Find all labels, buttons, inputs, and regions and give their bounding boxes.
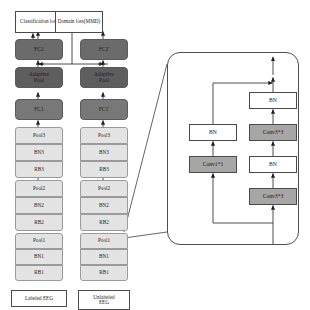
- source-bn3-label: BN3: [34, 150, 44, 155]
- source-pool2-label: Pool2: [33, 186, 45, 191]
- target-rb2-box: RB2: [80, 214, 128, 231]
- target-rb1-box: RB1: [80, 265, 128, 281]
- domain-loss-box: Domain loss(MMD): [55, 11, 103, 33]
- target-rb2-label: RB2: [99, 220, 109, 225]
- source-rb3-label: RB3: [34, 167, 44, 172]
- target-bn3-box: BN3: [80, 144, 128, 161]
- classification-loss-label: Classification loss: [20, 19, 58, 24]
- target-fc1-label: FC1': [99, 107, 109, 113]
- unlabeled-eeg-label-2: EEG: [99, 300, 109, 305]
- source-bn3-box: BN3: [15, 144, 63, 161]
- source-pool2-box: Pool2: [15, 180, 63, 197]
- source-rb3-box: RB3: [15, 161, 63, 178]
- target-fc2-label: FC2': [99, 47, 109, 53]
- residual-conv1x1-box: Conv1*1: [189, 156, 237, 173]
- source-rb2-box: RB2: [15, 214, 63, 231]
- unlabeled-eeg-input-box: Unlabeled EEG: [78, 290, 130, 310]
- source-fc1-label: FC1: [34, 107, 43, 113]
- target-rb3-box: RB3: [80, 161, 128, 178]
- source-rb1-label: RB1: [34, 270, 44, 275]
- source-rb1-box: RB1: [15, 265, 63, 281]
- target-rb1-label: RB1: [99, 270, 109, 275]
- target-pool1-box: Pool1: [80, 233, 128, 249]
- source-fc1-box: FC1: [15, 99, 63, 120]
- source-pool1-box: Pool1: [15, 233, 63, 249]
- domain-loss-label: Domain loss(MMD): [58, 19, 101, 24]
- residual-conv1x1-label: Conv1*1: [203, 162, 224, 168]
- target-adaptive-pool-box: Adaptive Pool: [80, 67, 128, 88]
- source-fc2-label: FC2: [34, 47, 43, 53]
- source-bn1-box: BN1: [15, 249, 63, 265]
- target-bn2-label: BN2: [99, 203, 109, 208]
- labeled-eeg-input-box: Labeled EEG: [11, 290, 67, 307]
- target-bn1-box: BN1: [80, 249, 128, 265]
- source-adaptive-pool-label-2: Pool: [34, 78, 44, 84]
- target-adaptive-pool-label-2: Pool: [99, 78, 109, 84]
- residual-bn-mid-label: BN: [269, 162, 277, 168]
- target-bn3-label: BN3: [99, 150, 109, 155]
- source-adaptive-pool-box: Adaptive Pool: [15, 67, 63, 88]
- labeled-eeg-label: Labeled EEG: [25, 296, 53, 301]
- residual-bn-shortcut-label: BN: [209, 130, 217, 136]
- residual-connectors: [168, 53, 298, 244]
- target-fc2-box: FC2': [80, 39, 128, 60]
- target-pool3-label: Pool3: [98, 133, 110, 138]
- residual-conv3x3-in-label: Conv3*3: [263, 194, 284, 200]
- residual-block-panel: Conv3*3 BN Conv3*3 BN Conv1*1 BN: [167, 52, 299, 245]
- source-bn2-box: BN2: [15, 197, 63, 214]
- source-bn2-label: BN2: [34, 203, 44, 208]
- target-rb3-label: RB3: [99, 167, 109, 172]
- source-bn1-label: BN1: [34, 254, 44, 259]
- target-pool2-box: Pool2: [80, 180, 128, 197]
- source-fc2-box: FC2: [15, 39, 63, 60]
- target-pool2-label: Pool2: [98, 186, 110, 191]
- source-pool1-label: Pool1: [33, 238, 45, 243]
- residual-conv3x3-out-label: Conv3*3: [263, 130, 284, 136]
- residual-conv3x3-in-box: Conv3*3: [249, 188, 297, 205]
- residual-bn-mid-box: BN: [249, 156, 297, 173]
- residual-bn-shortcut-box: BN: [189, 124, 237, 141]
- target-pool1-label: Pool1: [98, 238, 110, 243]
- residual-bn-top-label: BN: [269, 98, 277, 104]
- source-rb2-label: RB2: [34, 220, 44, 225]
- target-fc1-box: FC1': [80, 99, 128, 120]
- target-bn1-label: BN1: [99, 254, 109, 259]
- target-bn2-box: BN2: [80, 197, 128, 214]
- residual-conv3x3-out-box: Conv3*3: [249, 124, 297, 141]
- source-pool3-label: Pool3: [33, 133, 45, 138]
- residual-bn-top-box: BN: [249, 92, 297, 109]
- target-pool3-box: Pool3: [80, 127, 128, 144]
- source-pool3-box: Pool3: [15, 127, 63, 144]
